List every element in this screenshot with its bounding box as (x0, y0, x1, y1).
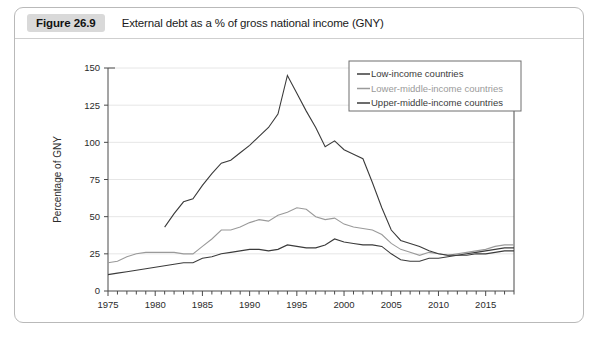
x-axis-ticks-group: 197519801985199019952000200520102015 (97, 291, 514, 310)
chart-svg: 0255075100125150 19751980198519901995200… (15, 39, 584, 323)
line-chart: 0255075100125150 19751980198519901995200… (15, 39, 584, 323)
y-tick-label: 75 (89, 174, 100, 185)
y-axis-ticks-group: 0255075100125150 (84, 62, 108, 296)
series-line (108, 239, 514, 275)
legend-label: Upper-middle-income countries (371, 97, 503, 108)
y-tick-label: 25 (89, 248, 100, 259)
figure-caption: External debt as a % of gross national i… (122, 17, 384, 29)
x-tick-label: 2010 (428, 299, 449, 310)
series-line (108, 208, 514, 263)
y-tick-label: 0 (95, 285, 100, 296)
x-tick-label: 1975 (97, 299, 118, 310)
x-tick-label: 1985 (192, 299, 213, 310)
x-tick-label: 2005 (381, 299, 402, 310)
x-tick-label: 2000 (333, 299, 354, 310)
legend-label: Low-income countries (371, 68, 464, 79)
x-tick-label: 1990 (239, 299, 260, 310)
figure-panel: Figure 26.9 External debt as a % of gros… (14, 7, 584, 323)
x-tick-label: 1980 (145, 299, 166, 310)
y-tick-label: 125 (84, 100, 100, 111)
x-tick-label: 2015 (475, 299, 496, 310)
chart-legend: Low-income countriesLower-middle-income … (349, 61, 521, 111)
y-tick-label: 50 (89, 211, 100, 222)
figure-header: Figure 26.9 External debt as a % of gros… (15, 8, 583, 38)
y-tick-label: 100 (84, 137, 100, 148)
x-tick-label: 1995 (286, 299, 307, 310)
y-tick-label: 150 (84, 62, 100, 73)
figure-number-badge: Figure 26.9 (27, 14, 105, 32)
y-axis-title: Percentage of GNY (52, 136, 63, 223)
legend-label: Lower-middle-income countries (371, 83, 503, 94)
